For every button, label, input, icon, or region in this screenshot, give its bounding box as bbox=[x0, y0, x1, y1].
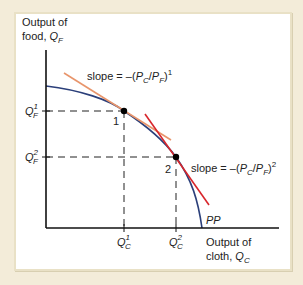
point-2-label: 2 bbox=[165, 163, 171, 175]
x-axis-label-line2: cloth, QC bbox=[206, 250, 250, 265]
x-tick-label-qc1: Q1C bbox=[117, 233, 131, 251]
point-1-label: 1 bbox=[113, 115, 119, 127]
guide-lines bbox=[46, 111, 176, 228]
x-tick-label-qc2: Q2C bbox=[169, 233, 183, 251]
point-2-marker bbox=[173, 154, 179, 160]
y-axis-label-line2: food, QF bbox=[22, 30, 64, 45]
y-axis-label-line1: Output of bbox=[22, 16, 68, 28]
x-axis-label-line1: Output of bbox=[206, 236, 252, 248]
y-tick-label-qf2: Q2F bbox=[25, 148, 39, 166]
point-1-marker bbox=[121, 108, 127, 114]
slope-label-1: slope = –(PC/PF)1 bbox=[87, 68, 173, 85]
ppf-diagram: Output of food, QF Output of cloth, QC P… bbox=[0, 0, 303, 285]
tangent-line-1 bbox=[64, 73, 171, 140]
slope-label-2: slope = –(PC/PF)2 bbox=[191, 160, 277, 177]
frontier-label: PP bbox=[206, 214, 221, 226]
y-tick-label-qf1: Q1F bbox=[25, 102, 39, 120]
